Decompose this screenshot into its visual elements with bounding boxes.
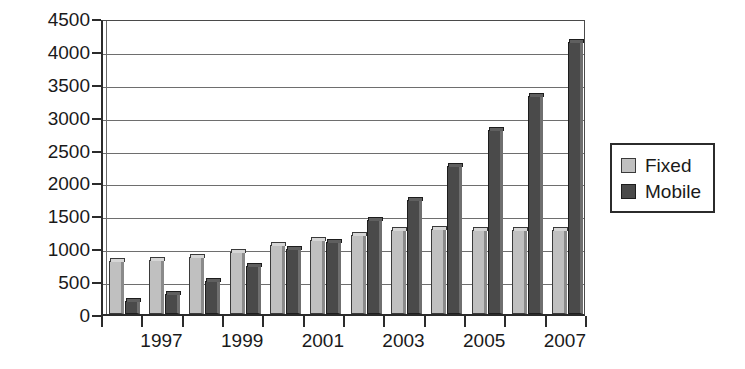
bar-fixed-2001 xyxy=(310,240,325,314)
y-tick-label: 0 xyxy=(0,306,90,325)
bar-fixed-2000 xyxy=(270,245,285,314)
bar-mobile-1997 xyxy=(165,294,180,314)
x-tick-label: 1997 xyxy=(140,330,182,352)
plot-area xyxy=(101,20,585,316)
y-tick-label: 3500 xyxy=(0,76,90,95)
bar-top-cap xyxy=(392,227,407,231)
x-tick-mark xyxy=(504,316,506,327)
y-tick-label: 2000 xyxy=(0,174,90,193)
bar-top-cap xyxy=(110,258,125,262)
bar-group xyxy=(512,21,543,314)
bar-top-cap xyxy=(206,278,221,282)
bar-top-cap xyxy=(352,232,367,236)
y-tick-mark xyxy=(92,249,101,251)
bar-fixed-2005 xyxy=(472,230,487,314)
bar-top-cap xyxy=(271,242,286,246)
bar-fixed-2003 xyxy=(391,230,406,314)
x-tick-label: 2003 xyxy=(382,330,424,352)
bar-group xyxy=(109,21,140,314)
x-tick-mark xyxy=(383,316,385,327)
bar-fixed-2002 xyxy=(351,235,366,314)
legend-label-mobile: Mobile xyxy=(645,182,701,201)
x-tick-mark xyxy=(303,316,305,327)
bar-mobile-2007 xyxy=(568,42,583,314)
bar-fixed-1999 xyxy=(230,252,245,314)
bar-top-cap xyxy=(513,227,528,231)
bar-mobile-2004 xyxy=(447,166,462,314)
x-tick-mark xyxy=(141,316,143,327)
bar-fixed-2006 xyxy=(512,230,527,314)
bar-group xyxy=(431,21,462,314)
fixed-swatch-icon xyxy=(621,158,636,173)
bar-top-cap xyxy=(473,227,488,231)
bar-group xyxy=(149,21,180,314)
bar-top-cap xyxy=(529,93,544,97)
x-tick-mark xyxy=(182,316,184,327)
bar-top-cap xyxy=(287,246,302,250)
legend-item-mobile: Mobile xyxy=(621,178,701,204)
bar-group xyxy=(552,21,583,314)
y-tick-label: 1000 xyxy=(0,240,90,259)
bar-fixed-1996 xyxy=(109,261,124,314)
y-tick-mark xyxy=(92,216,101,218)
legend-label-fixed: Fixed xyxy=(645,156,691,175)
bar-fixed-1998 xyxy=(189,257,204,314)
bar-top-cap xyxy=(311,237,326,241)
bar-top-cap xyxy=(569,39,584,43)
bar-top-cap xyxy=(327,239,342,243)
x-tick-label: 2007 xyxy=(544,330,586,352)
bar-fixed-1997 xyxy=(149,260,164,314)
y-tick-mark xyxy=(92,52,101,54)
x-tick-mark xyxy=(343,316,345,327)
bar-top-cap xyxy=(448,163,463,167)
bar-top-cap xyxy=(368,217,383,221)
bar-group xyxy=(230,21,261,314)
bar-mobile-2006 xyxy=(528,96,543,314)
y-tick-mark xyxy=(92,151,101,153)
y-tick-mark xyxy=(92,118,101,120)
bar-chart: 050010001500200025003000350040004500 199… xyxy=(0,0,745,369)
bar-group xyxy=(351,21,382,314)
y-tick-mark xyxy=(92,19,101,21)
x-tick-label: 2001 xyxy=(302,330,344,352)
bar-mobile-2005 xyxy=(488,130,503,314)
y-tick-label: 2500 xyxy=(0,142,90,161)
x-tick-mark xyxy=(424,316,426,327)
bar-top-cap xyxy=(150,257,165,261)
bar-top-cap xyxy=(126,298,141,302)
bar-group xyxy=(391,21,422,314)
bar-mobile-1999 xyxy=(246,266,261,314)
bar-top-cap xyxy=(247,263,262,267)
bar-group xyxy=(472,21,503,314)
bar-top-cap xyxy=(432,226,447,230)
bar-mobile-1998 xyxy=(205,281,220,314)
y-tick-mark xyxy=(92,183,101,185)
y-axis: 050010001500200025003000350040004500 xyxy=(0,0,90,369)
x-tick-mark xyxy=(262,316,264,327)
bar-top-cap xyxy=(553,227,568,231)
x-axis: 199719992001200320052007 xyxy=(101,330,585,362)
bar-mobile-2002 xyxy=(367,220,382,314)
y-tick-label: 4500 xyxy=(0,10,90,29)
y-tick-mark xyxy=(92,282,101,284)
bar-mobile-1996 xyxy=(125,301,140,314)
x-tick-mark xyxy=(545,316,547,327)
bar-group xyxy=(270,21,301,314)
x-tick-mark xyxy=(464,316,466,327)
bar-fixed-2004 xyxy=(431,229,446,314)
bar-mobile-2001 xyxy=(326,242,341,314)
x-tick-mark xyxy=(222,316,224,327)
bar-group xyxy=(189,21,220,314)
y-tick-mark xyxy=(92,85,101,87)
y-tick-mark xyxy=(92,315,101,317)
bar-mobile-2003 xyxy=(407,200,422,314)
x-tick-label: 2005 xyxy=(463,330,505,352)
chart-legend: Fixed Mobile xyxy=(610,143,715,213)
y-tick-label: 1500 xyxy=(0,207,90,226)
bar-top-cap xyxy=(231,249,246,253)
mobile-swatch-icon xyxy=(621,184,636,199)
bar-fixed-2007 xyxy=(552,230,567,314)
y-tick-label: 4000 xyxy=(0,43,90,62)
y-tick-label: 500 xyxy=(0,273,90,292)
legend-item-fixed: Fixed xyxy=(621,152,701,178)
